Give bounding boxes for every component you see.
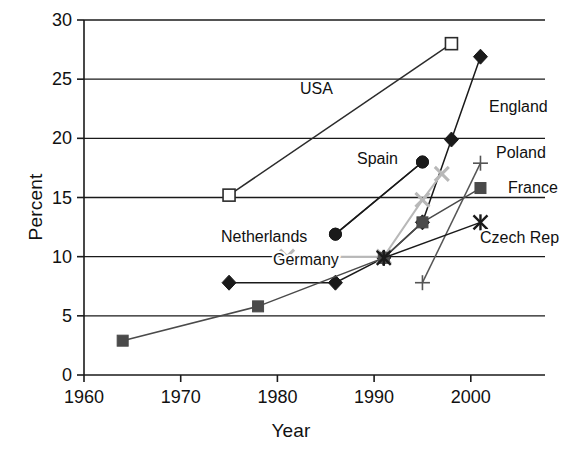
x-tick-label-2000: 2000 bbox=[451, 387, 491, 407]
series-czech-rep bbox=[377, 214, 488, 266]
percent-by-year-line-chart: 05101520253019601970198019902000 USAUSAE… bbox=[0, 0, 582, 454]
marker-filled-square bbox=[117, 335, 128, 346]
series-annotations: USAUSAEnglandEnglandSpainSpainPolandPola… bbox=[221, 80, 559, 268]
series-line bbox=[384, 222, 481, 258]
marker-filled-diamond bbox=[328, 275, 342, 290]
annotation-netherlands: Netherlands bbox=[221, 228, 307, 245]
marker-thin-plus bbox=[415, 275, 430, 290]
y-tick-label-20: 20 bbox=[52, 128, 72, 148]
marker-filled-diamond bbox=[444, 132, 458, 147]
marker-filled-circle bbox=[329, 228, 341, 240]
annotation-germany: Germany bbox=[273, 251, 339, 268]
series-line bbox=[287, 174, 442, 257]
y-tick-label-5: 5 bbox=[62, 306, 72, 326]
y-tick-label-15: 15 bbox=[52, 188, 72, 208]
marker-filled-square bbox=[253, 301, 264, 312]
marker-filled-square bbox=[417, 217, 428, 228]
marker-thin-plus bbox=[473, 156, 488, 171]
series-usa bbox=[223, 38, 457, 201]
gridlines bbox=[84, 20, 545, 316]
y-tick-label-0: 0 bbox=[62, 365, 72, 385]
annotation-spain: Spain bbox=[357, 150, 398, 167]
x-tick-label-1960: 1960 bbox=[64, 387, 104, 407]
marker-filled-diamond bbox=[473, 49, 487, 64]
y-tick-label-25: 25 bbox=[52, 69, 72, 89]
y-axis-title: Percent bbox=[25, 147, 47, 267]
annotation-england: England bbox=[489, 98, 548, 115]
x-tick-label-1990: 1990 bbox=[354, 387, 394, 407]
tick-labels: 05101520253019601970198019902000 bbox=[52, 10, 491, 407]
series-line bbox=[422, 163, 480, 283]
marker-star-x bbox=[473, 214, 487, 230]
annotation-usa: USA bbox=[300, 80, 333, 97]
y-tick-label-30: 30 bbox=[52, 10, 72, 30]
marker-filled-square bbox=[475, 183, 486, 194]
x-axis-title: Year bbox=[0, 420, 582, 442]
annotation-czech-rep: Czech Rep bbox=[480, 229, 559, 246]
chart-container: 05101520253019601970198019902000 USAUSAE… bbox=[0, 0, 582, 454]
annotation-france: France bbox=[508, 179, 558, 196]
x-tick-label-1980: 1980 bbox=[257, 387, 297, 407]
marker-open-square bbox=[223, 189, 235, 201]
marker-filled-diamond bbox=[222, 275, 236, 290]
marker-light-cross bbox=[415, 193, 429, 207]
marker-open-square bbox=[445, 38, 457, 50]
marker-filled-circle bbox=[416, 156, 428, 168]
series-line bbox=[229, 44, 451, 195]
x-tick-label-1970: 1970 bbox=[161, 387, 201, 407]
y-tick-label-10: 10 bbox=[52, 247, 72, 267]
annotation-poland: Poland bbox=[496, 144, 546, 161]
